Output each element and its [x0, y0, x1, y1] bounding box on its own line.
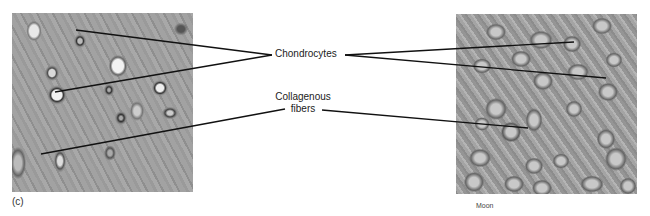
right-micrograph	[456, 14, 637, 194]
panel-label: (c)	[12, 196, 24, 208]
collagenous-fibers-label: Collagenous fibers	[270, 91, 336, 115]
collagenous-label-line1: Collagenous	[270, 91, 336, 103]
photo-credit: Moon	[476, 200, 494, 212]
collagenous-label-line2: fibers	[270, 103, 336, 115]
chondrocytes-label: Chondrocytes	[275, 48, 337, 60]
left-micrograph	[12, 13, 193, 192]
